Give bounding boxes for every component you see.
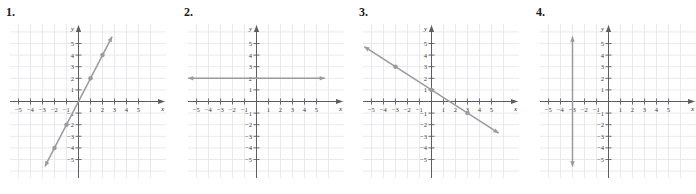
x-tick-label: 1	[442, 106, 445, 113]
data-point-marker	[100, 53, 105, 58]
x-tick-label: −4	[27, 106, 35, 113]
x-tick-label: −2	[581, 106, 588, 113]
x-tick-label: 2	[101, 106, 104, 113]
x-tick-label: 1	[267, 106, 270, 113]
x-tick-label: 4	[303, 106, 307, 113]
coordinate-plane-svg: −5−4−3−2−11234554321−1−2−3−4−5xy	[361, 22, 521, 180]
x-tick-label: −2	[404, 106, 411, 113]
x-tick-label: 4	[125, 106, 129, 113]
x-tick-label: 2	[279, 106, 282, 113]
line-arrowhead	[320, 76, 325, 81]
y-tick-label: −5	[420, 156, 428, 163]
line-arrowhead	[188, 76, 193, 81]
data-point-marker	[52, 146, 57, 151]
x-axis-label: x	[338, 105, 343, 113]
y-tick-label: 2	[424, 75, 427, 82]
y-tick-label: −5	[67, 156, 75, 163]
panel-number-label: 1.	[6, 5, 15, 20]
y-tick-label: −1	[597, 110, 604, 117]
x-tick-label: −2	[51, 106, 58, 113]
axes	[540, 25, 695, 178]
y-tick-label: −4	[245, 144, 253, 151]
y-tick-label: −4	[420, 144, 428, 151]
coordinate-plane-svg: −5−4−3−2−11234554321−1−2−3−4−5xy	[538, 22, 696, 180]
y-tick-label: −3	[597, 133, 605, 140]
x-tick-label: 4	[478, 106, 482, 113]
x-tick-label: −4	[557, 106, 565, 113]
x-tick-label: 2	[631, 106, 634, 113]
x-tick-label: −3	[392, 106, 400, 113]
axes	[10, 25, 165, 178]
x-tick-label: −4	[205, 106, 213, 113]
graph-panel-1: 1.−5−4−3−2−11234554321−1−2−3−4−5xy	[0, 0, 174, 194]
x-axis-label: x	[160, 105, 165, 113]
x-tick-label: −5	[193, 106, 201, 113]
x-tick-label: −4	[380, 106, 388, 113]
graph-panel-3: 3.−5−4−3−2−11234554321−1−2−3−4−5xy	[353, 0, 527, 194]
x-tick-label: 3	[113, 106, 117, 113]
y-tick-label: 1	[249, 86, 252, 93]
y-tick-label: −1	[420, 110, 427, 117]
y-tick-label: 1	[601, 86, 604, 93]
y-tick-label: −3	[67, 133, 75, 140]
y-tick-label: −3	[420, 133, 428, 140]
coordinate-plane: −5−4−3−2−11234554321−1−2−3−4−5xy	[186, 22, 346, 180]
x-axis-label: x	[690, 105, 695, 113]
y-tick-label: 2	[71, 75, 74, 82]
y-tick-label: −4	[597, 144, 605, 151]
y-tick-label: −2	[420, 121, 427, 128]
x-tick-label: −5	[15, 106, 23, 113]
panel-number-label: 4.	[536, 5, 545, 20]
x-tick-label: 1	[619, 106, 622, 113]
y-tick-label: −3	[245, 133, 253, 140]
data-point-marker	[429, 88, 434, 93]
y-tick-label: 1	[71, 86, 74, 93]
y-tick-label: 2	[601, 75, 604, 82]
axes	[363, 25, 518, 178]
x-tick-label: 1	[89, 106, 92, 113]
axes	[188, 25, 343, 178]
x-tick-label: −3	[217, 106, 225, 113]
coordinate-plane: −5−4−3−2−11234554321−1−2−3−4−5xy	[8, 22, 168, 180]
data-point-marker	[88, 76, 93, 81]
x-tick-label: −5	[545, 106, 553, 113]
line-arrowhead	[570, 37, 575, 42]
line-arrowhead	[570, 161, 575, 166]
data-point-marker	[393, 64, 398, 69]
x-tick-label: 5	[490, 106, 494, 113]
x-tick-label: 5	[667, 106, 671, 113]
y-tick-label: −4	[67, 144, 75, 151]
x-tick-label: −2	[229, 106, 236, 113]
graph-panel-4: 4.−5−4−3−2−11234554321−1−2−3−4−5xy	[530, 0, 696, 194]
x-tick-label: 5	[137, 106, 141, 113]
data-point-marker	[465, 111, 470, 116]
x-tick-label: 3	[643, 106, 647, 113]
coordinate-plane-svg: −5−4−3−2−11234554321−1−2−3−4−5xy	[8, 22, 168, 180]
x-tick-label: 5	[315, 106, 319, 113]
y-tick-label: −5	[597, 156, 605, 163]
panel-number-label: 2.	[184, 5, 193, 20]
worksheet-graph-row: 1.−5−4−3−2−11234554321−1−2−3−4−5xy2.−5−4…	[0, 0, 696, 194]
x-tick-label: −3	[39, 106, 47, 113]
panel-number-label: 3.	[359, 5, 368, 20]
coordinate-plane: −5−4−3−2−11234554321−1−2−3−4−5xy	[538, 22, 696, 180]
data-point-marker	[64, 122, 69, 127]
y-tick-label: −1	[245, 110, 252, 117]
y-tick-label: −5	[245, 156, 253, 163]
coordinate-plane-svg: −5−4−3−2−11234554321−1−2−3−4−5xy	[186, 22, 346, 180]
graph-panel-2: 2.−5−4−3−2−11234554321−1−2−3−4−5xy	[178, 0, 352, 194]
x-tick-label: 4	[655, 106, 659, 113]
x-axis-label: x	[513, 105, 518, 113]
x-tick-label: 3	[291, 106, 295, 113]
x-tick-label: −5	[368, 106, 376, 113]
y-tick-label: −2	[245, 121, 252, 128]
y-tick-label: −2	[597, 121, 604, 128]
coordinate-plane: −5−4−3−2−11234554321−1−2−3−4−5xy	[361, 22, 521, 180]
